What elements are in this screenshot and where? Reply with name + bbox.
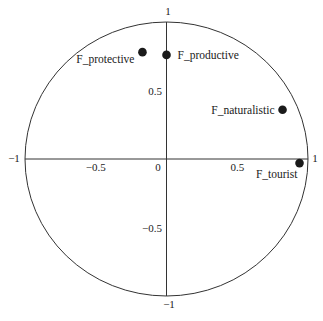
y-tick-label: −0.5 xyxy=(142,222,162,234)
x-tick-label: 0 xyxy=(155,161,161,173)
x-tick-label: 0.5 xyxy=(230,161,244,173)
x-tick-label: −0.5 xyxy=(86,161,106,173)
y-tick-label: 1 xyxy=(165,5,171,17)
x-tick-label: −1 xyxy=(8,152,20,164)
y-tick-label: −1 xyxy=(163,298,175,310)
data-point xyxy=(278,105,287,114)
correlation-circle-chart: −1−0.500.51−1−0.50.51F_protectiveF_produ… xyxy=(0,0,323,321)
point-label: F_naturalistic xyxy=(211,104,274,116)
point-label: F_protective xyxy=(76,53,134,66)
data-point xyxy=(295,159,304,168)
y-tick-label: 0.5 xyxy=(148,85,162,97)
data-point xyxy=(138,48,147,57)
point-label: F_productive xyxy=(178,49,239,62)
x-tick-label: 1 xyxy=(312,152,318,164)
point-label: F_tourist xyxy=(256,168,298,180)
data-point xyxy=(162,51,171,60)
